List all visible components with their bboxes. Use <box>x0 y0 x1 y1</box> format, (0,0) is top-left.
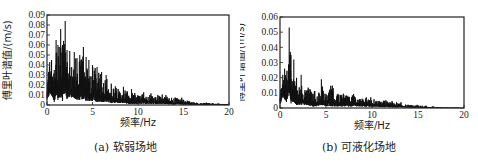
y-tick-label: 0.02 <box>261 73 278 83</box>
x-axis: 05101520频率/Hz <box>278 105 469 131</box>
y-tick-label: 0.02 <box>28 80 45 90</box>
x-tick-label: 0 <box>278 110 283 120</box>
y-tick-label: 0.09 <box>28 10 45 20</box>
y-tick-label: 0.06 <box>28 40 45 50</box>
x-tick-label: 20 <box>224 107 234 117</box>
x-tick-label: 10 <box>367 110 377 120</box>
y-tick-label: 0.07 <box>28 30 45 40</box>
x-tick-label: 15 <box>179 107 189 117</box>
y-tick-label: 0.03 <box>261 58 278 68</box>
y-axis-label: 傅里叶谱值/(m/s) <box>240 23 246 103</box>
y-tick-label: 0 <box>273 103 278 113</box>
spectrum-trace <box>280 28 464 108</box>
y-tick-label: 0.06 <box>261 12 278 22</box>
caption-a: (a) 软弱场地 <box>94 138 157 154</box>
y-tick-label: 0.08 <box>28 20 45 30</box>
chart-panel-a: 05101520频率/Hz00.010.020.030.040.050.060.… <box>0 0 240 164</box>
x-tick-label: 5 <box>90 107 95 117</box>
x-tick-label: 0 <box>45 107 50 117</box>
y-tick-label: 0.01 <box>28 90 45 100</box>
y-axis-label: 傅里叶谱值/(m/s) <box>1 20 13 100</box>
x-tick-label: 15 <box>413 110 423 120</box>
x-axis-label: 频率/Hz <box>120 116 156 128</box>
y-tick-label: 0 <box>40 100 45 110</box>
x-tick-label: 20 <box>459 110 469 120</box>
x-axis: 05101520频率/Hz <box>45 102 234 128</box>
x-tick-label: 10 <box>133 107 143 117</box>
spectrum-trace <box>47 21 229 105</box>
y-tick-label: 0.04 <box>261 43 278 53</box>
y-tick-label: 0.03 <box>28 70 45 80</box>
y-tick-label: 0.05 <box>28 50 45 60</box>
x-tick-label: 5 <box>324 110 329 120</box>
y-axis: 00.010.020.030.040.050.060.070.080.09傅里叶… <box>1 10 50 110</box>
y-axis: 00.010.020.030.040.050.06傅里叶谱值/(m/s) <box>240 12 283 113</box>
chart-panel-b: 05101520频率/Hz00.010.020.030.040.050.06傅里… <box>240 0 478 164</box>
x-axis-label: 频率/Hz <box>354 119 390 131</box>
y-tick-label: 0.01 <box>261 88 278 98</box>
y-tick-label: 0.05 <box>261 27 278 37</box>
y-tick-label: 0.04 <box>28 60 45 70</box>
caption-b: (b) 可液化场地 <box>322 138 396 154</box>
